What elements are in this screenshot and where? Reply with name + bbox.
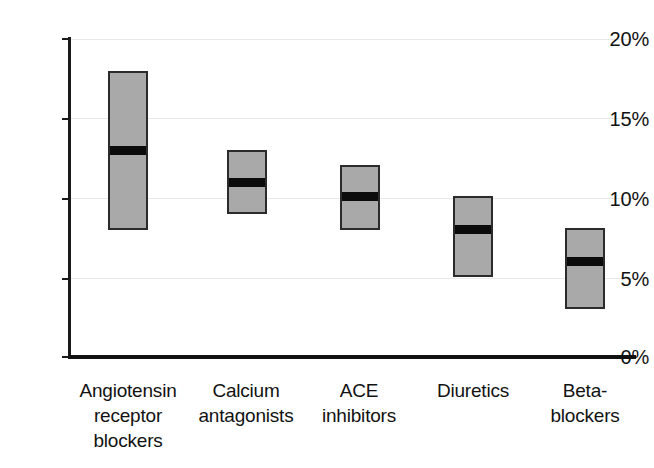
- category-label-line: blockers: [53, 428, 203, 453]
- gridline-15: [70, 118, 636, 119]
- range-bar: [108, 71, 148, 230]
- y-tick-label-0: 0%: [587, 347, 649, 367]
- gridline-5: [70, 278, 636, 279]
- plot-area: [70, 39, 636, 357]
- y-tick-label-5: 5%: [587, 269, 649, 289]
- range-bar: [340, 165, 380, 230]
- category-label-line: Beta-: [510, 378, 654, 403]
- median-marker: [110, 146, 146, 155]
- y-tick-20: [62, 38, 70, 40]
- category-label: Beta-blockers: [510, 378, 654, 428]
- y-tick-5: [62, 278, 70, 280]
- category-label-line: inhibitors: [284, 403, 434, 428]
- y-tick-label-20: 20%: [587, 29, 649, 49]
- y-tick-0: [62, 356, 70, 358]
- median-marker: [342, 192, 378, 201]
- y-tick-label-15: 15%: [587, 109, 649, 129]
- gridline-20: [70, 39, 636, 40]
- range-bar: [227, 150, 267, 214]
- category-label-line: blockers: [510, 403, 654, 428]
- y-tick-label-10: 10%: [587, 189, 649, 209]
- median-marker: [567, 257, 603, 266]
- median-marker: [455, 225, 491, 234]
- range-bar: [453, 196, 493, 277]
- y-tick-15: [62, 118, 70, 120]
- x-axis-line: [68, 355, 636, 359]
- median-marker: [229, 178, 265, 187]
- y-tick-10: [62, 198, 70, 200]
